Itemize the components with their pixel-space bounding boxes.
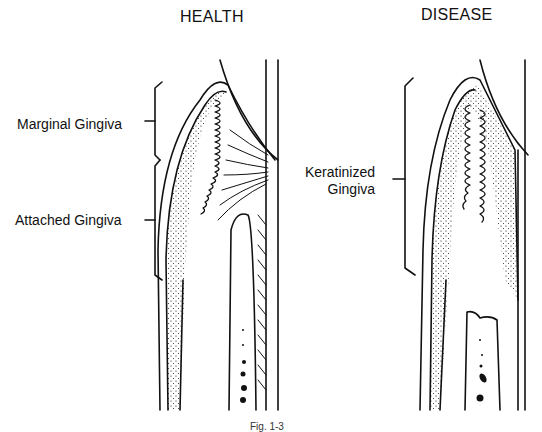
bracket-marginal	[155, 82, 162, 160]
figure-caption: Fig. 1-3	[250, 421, 284, 432]
bracket-keratinized	[405, 78, 415, 275]
disease-drawing	[393, 60, 528, 410]
health-drawing	[145, 60, 278, 410]
